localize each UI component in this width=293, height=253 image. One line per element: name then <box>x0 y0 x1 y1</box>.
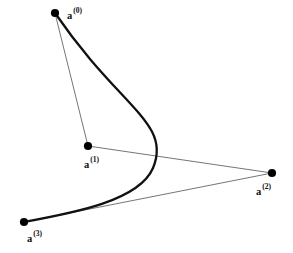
control-point-a3[interactable] <box>20 218 28 226</box>
control-point-a0[interactable] <box>51 9 59 17</box>
figure-canvas <box>0 0 293 253</box>
label-superscript-a2: (2) <box>262 182 271 191</box>
control-point-label-a1: a(1) <box>84 157 98 170</box>
figure-background <box>0 0 293 253</box>
control-point-a2[interactable] <box>268 169 276 177</box>
control-point-a1[interactable] <box>84 142 92 150</box>
label-base-a0: a <box>67 10 72 21</box>
label-superscript-a0: (0) <box>73 6 82 15</box>
label-base-a2: a <box>256 186 261 197</box>
label-base-a3: a <box>27 233 32 244</box>
control-point-label-a0: a(0) <box>67 8 81 21</box>
control-point-label-a3: a(3) <box>27 231 41 244</box>
control-point-label-a2: a(2) <box>256 184 270 197</box>
label-superscript-a1: (1) <box>90 155 99 164</box>
bezier-figure: a(0) a(1) a(2) a(3) <box>0 0 293 253</box>
label-superscript-a3: (3) <box>33 229 42 238</box>
label-base-a1: a <box>84 159 89 170</box>
